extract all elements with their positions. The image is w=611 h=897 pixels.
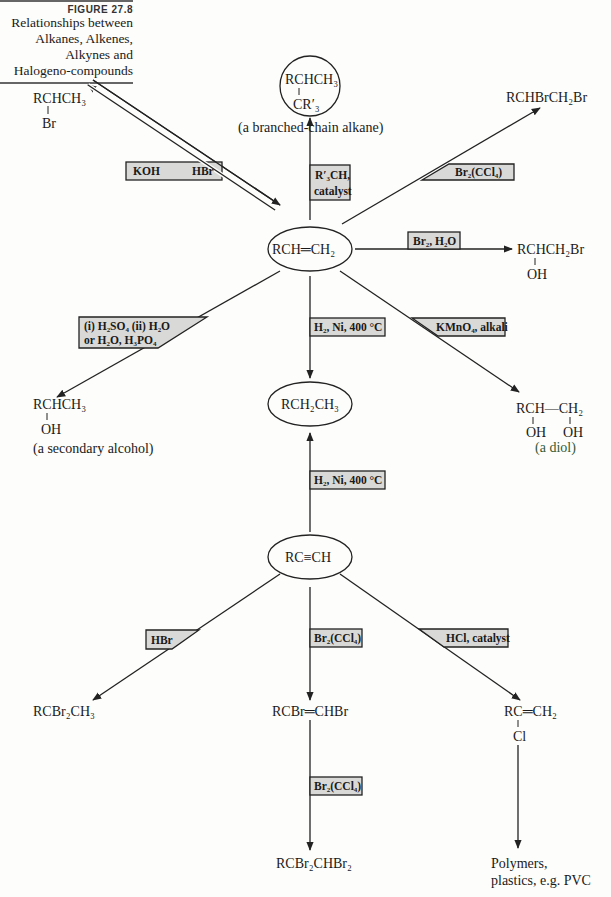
reagent-br2-ccl4-upper: Br₂(CCl₄) [455, 166, 502, 179]
branched-alkane-label: (a branched-chain alkane) [238, 120, 384, 136]
diol-main: RCH—CH₂ [516, 401, 583, 416]
reagent-kmno4: KMnO₄, alkali [436, 321, 509, 333]
dibromide: RCHBrCH₂Br [506, 90, 587, 105]
bromohydrin-main: RCHCH₂Br [517, 242, 584, 257]
diol-branch-right: OH [563, 425, 583, 440]
gem-dibromide: RCBr₂CH₃ [33, 704, 95, 719]
branched-alkane-main: RCHCH₃ [285, 72, 338, 87]
reagent-h2so4-line2: or H₂O, H₃PO₄ [84, 334, 157, 346]
reagent-r3ch-line2: catalyst [314, 185, 352, 198]
diol-branch-left: OH [526, 425, 546, 440]
reagent-hbr-upper: HBr [192, 165, 214, 177]
bromohydrin-branch: OH [527, 267, 547, 282]
secondary-alcohol-label: (a secondary alcohol) [33, 441, 154, 457]
alkane: RCH₂CH₃ [281, 397, 339, 412]
secondary-alcohol-branch: OH [41, 422, 61, 437]
reagent-h2so4-line1: (i) H₂SO₄ (ii) H₂O [84, 320, 170, 333]
vinyl-chloride-main: RC═CH₂ [504, 704, 557, 719]
reaction-diagram: KOH HBr R′₃CH, catalyst Br₂(CCl₄) Br₂, H… [0, 0, 611, 897]
dibromoalkene: RCBr═CHBr [272, 704, 348, 719]
reagent-hbr-lower: HBr [151, 634, 173, 646]
reagent-hcl: HCl, catalyst [446, 632, 510, 645]
diol-label: (a diol) [535, 440, 576, 456]
branched-alkane-branch: CR′₃ [293, 97, 320, 112]
alkene: RCH═CH₂ [272, 242, 335, 257]
reagent-r3ch-line1: R′₃CH, [315, 169, 350, 181]
reagent-br2-h2o: Br₂, H₂O [413, 235, 456, 247]
reagent-koh: KOH [133, 165, 160, 177]
double-arrow-alkene-bromoalkane [88, 80, 280, 210]
reagent-h2-ni-lower: H₂, Ni, 400 °C [314, 474, 382, 486]
polymers-line2: plastics, e.g. PVC [491, 873, 591, 888]
polymers-line1: Polymers, [491, 856, 547, 871]
bromoalkane-main: RCHCH₃ [33, 91, 86, 106]
alkyne: RC≡CH [285, 550, 331, 565]
secondary-alcohol-main: RCHCH₃ [33, 397, 86, 412]
bromoalkane-branch: Br [42, 116, 56, 131]
reagent-br2-ccl4-lower: Br₂(CCl₄) [314, 780, 361, 793]
reagent-br2-ccl4-mid: Br₂(CCl₄) [314, 632, 361, 645]
tetrabromide: RCBr₂CHBr₂ [276, 856, 352, 871]
vinyl-chloride-branch: Cl [513, 729, 526, 744]
reagent-box-koh-hbr [88, 80, 280, 210]
reagent-h2-ni-upper: H₂, Ni, 400 °C [314, 321, 382, 333]
